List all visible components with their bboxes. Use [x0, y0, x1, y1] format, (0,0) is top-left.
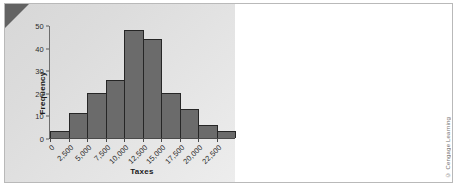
- histogram-bar: [87, 93, 107, 138]
- histogram-bar: [161, 93, 181, 138]
- y-tick-label: 10: [35, 112, 44, 121]
- corner-triangle-decoration: [5, 4, 29, 28]
- y-tick-mark: [46, 93, 49, 94]
- figure-frame: Frequency 01020304050 02,5005,0007,50010…: [4, 3, 453, 183]
- histogram-bar: [198, 125, 218, 138]
- x-axis-title: Taxes: [49, 167, 235, 176]
- histogram-bars: [50, 26, 235, 138]
- x-tick-mark: [87, 139, 88, 142]
- x-tick-mark: [50, 139, 51, 142]
- y-tick-label: 0: [40, 135, 44, 144]
- histogram-bar: [106, 80, 126, 138]
- x-tick-mark: [217, 139, 218, 142]
- y-tick-mark: [46, 48, 49, 49]
- histogram-bar: [180, 109, 200, 138]
- y-tick-mark: [46, 26, 49, 27]
- x-tick-mark: [143, 139, 144, 142]
- y-tick-label: 20: [35, 89, 44, 98]
- y-tick-label: 30: [35, 67, 44, 76]
- plot-area: 01020304050 02,5005,0007,50010,00012,500…: [49, 26, 235, 139]
- y-tick-label: 50: [35, 22, 44, 31]
- histogram-bar: [69, 113, 89, 138]
- histogram-bar: [217, 131, 237, 138]
- x-tick-mark: [124, 139, 125, 142]
- x-tick-mark: [161, 139, 162, 142]
- histogram-figure: Frequency 01020304050 02,5005,0007,50010…: [0, 0, 457, 189]
- y-tick-label: 40: [35, 44, 44, 53]
- histogram-bar: [143, 39, 163, 138]
- y-tick-mark: [46, 71, 49, 72]
- attribution-text: © Cengage Learning: [445, 117, 451, 178]
- histogram-bar: [50, 131, 70, 138]
- y-tick-mark: [46, 139, 49, 140]
- x-tick-mark: [198, 139, 199, 142]
- x-tick-mark: [180, 139, 181, 142]
- x-tick-mark: [69, 139, 70, 142]
- x-tick-mark: [106, 139, 107, 142]
- histogram-bar: [124, 30, 144, 138]
- y-tick-mark: [46, 116, 49, 117]
